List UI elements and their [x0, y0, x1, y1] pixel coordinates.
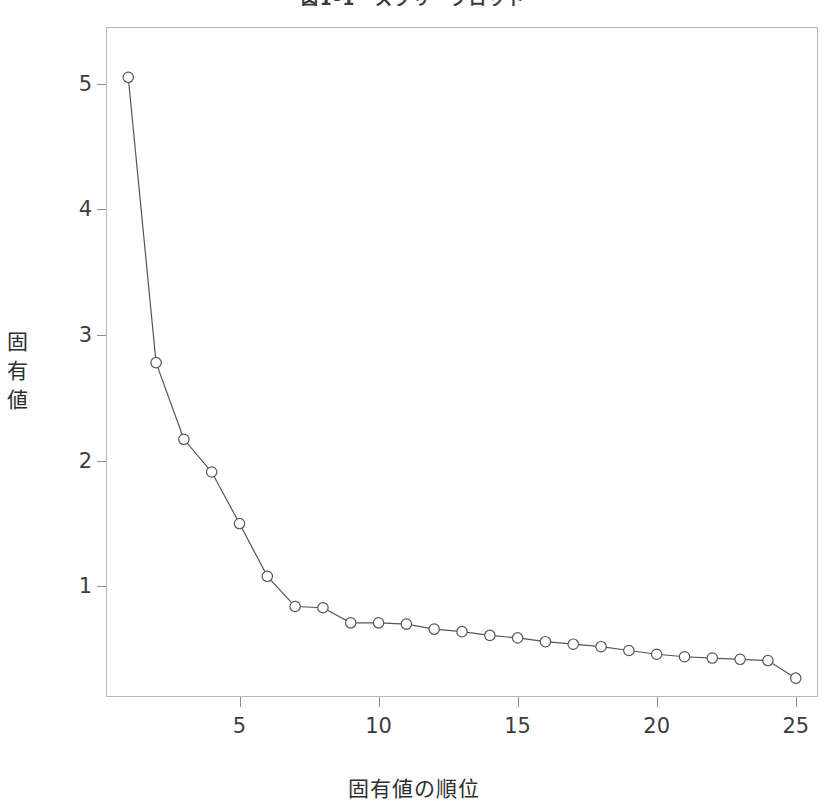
scree-plot-figure: 図1-1 スクリープロット 12345 510152025 固有値 固有値の順位 — [0, 0, 827, 804]
x-tick-mark — [657, 697, 658, 707]
y-axis-title: 固有値 — [4, 328, 30, 415]
x-tick-label: 15 — [488, 714, 548, 738]
y-axis-title-char: 固 — [4, 328, 30, 357]
x-axis-title: 固有値の順位 — [0, 772, 827, 802]
x-tick-label: 20 — [627, 714, 687, 738]
x-tick-label: 5 — [210, 714, 270, 738]
x-tick-mark — [379, 697, 380, 707]
x-tick-mark — [796, 697, 797, 707]
x-tick-label: 25 — [766, 714, 826, 738]
y-axis-title-char: 値 — [4, 386, 30, 415]
x-tick-mark — [240, 697, 241, 707]
y-axis-title-char: 有 — [4, 357, 30, 386]
x-tick-label: 10 — [349, 714, 409, 738]
x-tick-mark — [518, 697, 519, 707]
x-axis-ticks: 510152025 — [0, 0, 827, 804]
